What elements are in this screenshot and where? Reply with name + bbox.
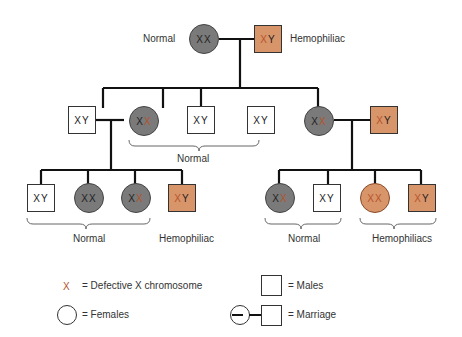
gen1-father: XY xyxy=(254,25,282,53)
pedigree-diagram: Normal XX XY Hemophiliac XY XX XY XY XX … xyxy=(0,0,462,337)
gen2-right-husband: XY xyxy=(370,106,398,134)
gen2-son-2: XY xyxy=(247,106,275,134)
legend-females-text: = Females xyxy=(82,309,129,320)
gen3-left-son-normal: XY xyxy=(27,184,55,212)
legend-marriage-female-icon xyxy=(230,305,250,325)
legend-males-text: = Males xyxy=(288,280,323,291)
gen2-group-label: Normal xyxy=(177,153,209,164)
legend-marriage-male-icon xyxy=(261,305,282,326)
gen3-right-daughter-hemophiliac: XX xyxy=(360,183,390,213)
gen3-left-affected-label: Hemophiliac xyxy=(159,233,214,244)
gen3-left-daughter-normal: XX xyxy=(74,183,104,213)
gen3-right-son-normal: XY xyxy=(313,184,341,212)
gen2-son-1: XY xyxy=(187,106,215,134)
gen1-mother: XX xyxy=(189,24,219,54)
gen2-left-husband: XY xyxy=(68,106,96,134)
gen3-right-affected-label: Hemophiliacs xyxy=(372,233,432,244)
gen3-left-son-hemophiliac: XY xyxy=(168,184,196,212)
gen2-daughter-carrier-1: XX xyxy=(129,106,159,136)
gen3-right-normal-label: Normal xyxy=(288,233,320,244)
gen3-right-daughter-carrier: XX xyxy=(265,183,295,213)
legend-marriage-text: = Marriage xyxy=(288,309,336,320)
gen3-right-son-hemophiliac: XY xyxy=(408,184,436,212)
gen1-father-label: Hemophiliac xyxy=(290,33,345,44)
legend-defective-text: = Defective X chromosome xyxy=(82,280,202,291)
legend-male-icon xyxy=(261,275,282,296)
legend-female-icon xyxy=(57,305,77,325)
gen2-daughter-carrier-2: XX xyxy=(304,106,334,136)
gen1-mother-label: Normal xyxy=(143,33,175,44)
legend-defective-x-icon: X xyxy=(63,281,70,292)
gen3-left-daughter-carrier: XX xyxy=(121,183,151,213)
gen3-left-group-label: Normal xyxy=(73,233,105,244)
